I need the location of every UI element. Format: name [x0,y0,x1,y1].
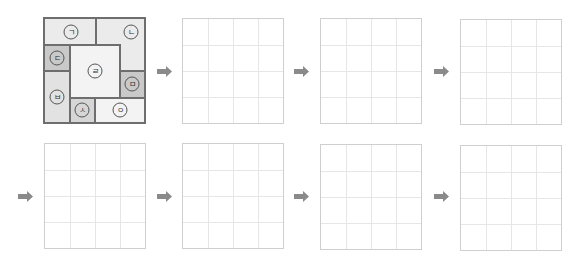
border-line [45,70,70,72]
empty-grid-6[interactable] [320,144,422,250]
empty-grid-2[interactable] [320,18,422,124]
border-line [95,19,97,45]
label-bieup: ㅂ [50,90,65,105]
right-arrow-icon [434,191,449,202]
empty-grid-7[interactable] [460,145,562,251]
right-arrow-icon [18,191,33,202]
label-siot: ㅅ [75,103,90,118]
label-mieum: ㅁ [125,77,140,92]
label-ieung: ㅇ [113,103,128,118]
border-line [69,97,144,99]
label-digeut: ㄷ [50,51,65,66]
label-giyeok: ㄱ [64,25,79,40]
right-arrow-icon [157,191,172,202]
empty-grid-5[interactable] [182,143,284,249]
border-line [69,44,71,122]
border-line [94,97,96,122]
empty-grid-1[interactable] [182,18,284,124]
border-line [45,44,120,46]
label-nieun: ㄴ [124,25,139,40]
puzzle-grid: ㄱ ㄴ ㄷ ㄹ ㅁ ㅂ ㅅ ㅇ [43,17,146,124]
right-arrow-icon [294,66,309,77]
right-arrow-icon [157,66,172,77]
border-line [119,70,144,72]
empty-grid-3[interactable] [460,19,562,125]
right-arrow-icon [294,191,309,202]
piece-nieun-side [120,45,144,71]
empty-grid-4[interactable] [44,143,146,249]
right-arrow-icon [434,66,449,77]
label-rieul: ㄹ [88,64,103,79]
